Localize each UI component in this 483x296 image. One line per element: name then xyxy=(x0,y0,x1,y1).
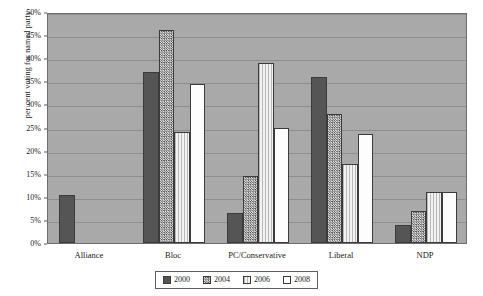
gridline xyxy=(48,37,466,38)
bar-pc-conservative-2008 xyxy=(274,128,290,244)
x-axis-label-pc-conservative: PC/Conservative xyxy=(228,250,286,260)
bar-liberal-2004 xyxy=(327,114,343,243)
gridline xyxy=(48,130,466,131)
gridline xyxy=(48,106,466,107)
legend-swatch-2006 xyxy=(243,276,251,284)
y-axis-tick-label: 10% xyxy=(26,194,41,202)
y-axis-tick-label: 45% xyxy=(26,32,41,40)
bar-alliance-2000 xyxy=(59,195,75,244)
bar-ndp-2000 xyxy=(395,225,411,243)
gridline xyxy=(48,60,466,61)
y-axis-tick-label: 20% xyxy=(26,148,41,156)
bar-pc-conservative-2004 xyxy=(243,176,259,243)
y-axis-tick-label: 15% xyxy=(26,171,41,179)
x-axis-label-alliance: Alliance xyxy=(75,250,104,260)
bar-chart: per cent voting for named party 0%5%10%1… xyxy=(0,0,483,296)
x-axis-category-labels: AllianceBlocPC/ConservativeLiberalNDP xyxy=(47,250,467,264)
bar-liberal-2000 xyxy=(311,77,327,243)
y-axis-tick-labels: 0%5%10%15%20%25%30%35%40%45%50% xyxy=(0,13,44,244)
legend-label-2000: 2000 xyxy=(174,276,190,284)
legend-swatch-2000 xyxy=(163,276,171,284)
bar-liberal-2006 xyxy=(342,164,358,243)
bar-bloc-2004 xyxy=(159,30,175,243)
bar-bloc-2000 xyxy=(143,72,159,243)
y-axis-tick-label: 25% xyxy=(26,125,41,133)
chart-legend: 2000200420062008 xyxy=(155,271,318,289)
y-axis-tick-label: 50% xyxy=(26,9,41,17)
gridline xyxy=(48,153,466,154)
legend-label-2008: 2008 xyxy=(294,276,310,284)
legend-swatch-2008 xyxy=(283,276,291,284)
legend-item-2008[interactable]: 2008 xyxy=(283,276,310,284)
y-axis-tick-label: 40% xyxy=(26,55,41,63)
x-axis-label-liberal: Liberal xyxy=(329,250,354,260)
legend-label-2004: 2004 xyxy=(214,276,230,284)
bar-liberal-2008 xyxy=(358,134,374,243)
y-axis-tick-label: 35% xyxy=(26,78,41,86)
bar-ndp-2004 xyxy=(411,211,427,243)
y-axis-tick-label: 0% xyxy=(30,240,41,248)
legend-swatch-2004 xyxy=(203,276,211,284)
gridline xyxy=(48,14,466,15)
y-axis-tick-label: 30% xyxy=(26,101,41,109)
bar-ndp-2008 xyxy=(442,192,458,243)
y-axis-tick-label: 5% xyxy=(30,217,41,225)
legend-label-2006: 2006 xyxy=(254,276,270,284)
legend-item-2004[interactable]: 2004 xyxy=(203,276,230,284)
x-axis-label-ndp: NDP xyxy=(416,250,433,260)
legend-item-2006[interactable]: 2006 xyxy=(243,276,270,284)
bar-pc-conservative-2000 xyxy=(227,213,243,243)
plot-area xyxy=(47,13,467,244)
x-axis-label-bloc: Bloc xyxy=(165,250,181,260)
bar-ndp-2006 xyxy=(426,192,442,243)
bar-bloc-2008 xyxy=(190,84,206,243)
bar-pc-conservative-2006 xyxy=(258,63,274,243)
bar-bloc-2006 xyxy=(174,132,190,243)
legend-item-2000[interactable]: 2000 xyxy=(163,276,190,284)
gridline xyxy=(48,83,466,84)
